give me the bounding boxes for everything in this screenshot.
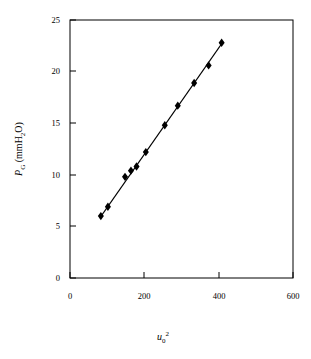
data-point-marker (206, 61, 212, 69)
y-tick-label: 20 (52, 66, 61, 76)
scatter-plot-svg: 0 200 400 600 0 5 10 15 20 25 u02 PG (mm… (0, 0, 311, 359)
y-tick-label: 10 (52, 170, 61, 180)
x-axis-tick-labels: 0 200 400 600 (68, 291, 300, 301)
chart-figure: 0 200 400 600 0 5 10 15 20 25 u02 PG (mm… (0, 0, 311, 359)
y-axis-title: PG (mmH2O) (13, 122, 27, 177)
data-point-marker (219, 39, 225, 47)
data-point-marker (128, 166, 134, 174)
y-tick-label: 5 (56, 221, 60, 231)
x-tick-label: 200 (138, 291, 151, 301)
y-axis-ticks (70, 20, 76, 278)
fit-line (100, 42, 223, 218)
x-tick-label: 0 (68, 291, 72, 301)
x-tick-label: 400 (213, 291, 226, 301)
y-tick-label: 15 (52, 118, 61, 128)
y-axis-tick-labels: 0 5 10 15 20 25 (52, 15, 61, 283)
x-axis-ticks (70, 272, 293, 278)
y-tick-label: 25 (52, 15, 61, 25)
x-axis-title: u02 (157, 330, 170, 345)
x-tick-label: 600 (287, 291, 300, 301)
plot-frame (70, 20, 293, 278)
y-tick-label: 0 (56, 273, 60, 283)
